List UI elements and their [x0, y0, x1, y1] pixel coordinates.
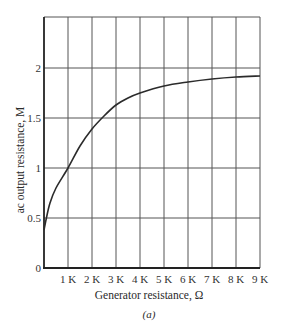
x-tick-labels: 1 K2 K3 K4 K5 K6 K7 K8 K9 K: [60, 273, 268, 285]
axes: [43, 17, 260, 269]
x-tick-label: 1 K: [60, 273, 76, 285]
x-tick-label: 5 K: [156, 273, 172, 285]
data-curve: [44, 76, 260, 230]
y-axis-label: ac output resistance, M: [14, 107, 27, 214]
x-tick-label: 6 K: [180, 273, 196, 285]
y-tick-label: 1.5: [27, 112, 41, 124]
x-tick-label: 9 K: [252, 273, 268, 285]
grid-lines: [44, 17, 260, 268]
y-tick-label: 0.5: [27, 212, 41, 224]
figure-caption: (a): [143, 308, 156, 321]
x-tick-label: 8 K: [228, 273, 244, 285]
chart: 00.511.52 1 K2 K3 K4 K5 K6 K7 K8 K9 K ac…: [0, 0, 284, 332]
x-tick-label: 4 K: [132, 273, 148, 285]
x-tick-label: 7 K: [204, 273, 220, 285]
x-tick-label: 2 K: [84, 273, 100, 285]
y-tick-label: 1: [36, 162, 42, 174]
y-tick-label: 2: [36, 62, 42, 74]
x-tick-label: 3 K: [108, 273, 124, 285]
x-axis-label: Generator resistance, Ω: [95, 289, 203, 302]
y-tick-label: 0: [36, 262, 42, 274]
y-tick-labels: 00.511.52: [27, 62, 41, 274]
